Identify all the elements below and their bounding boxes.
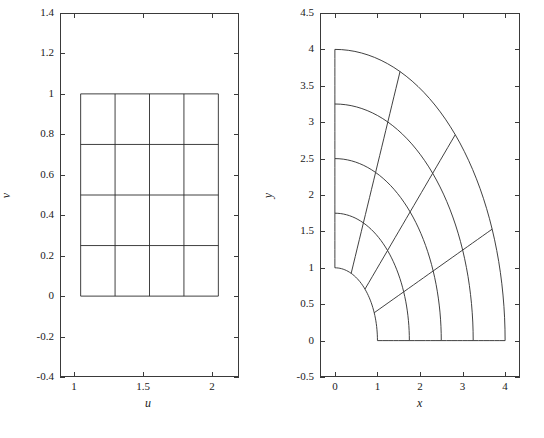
xy-mesh-angular-1 — [374, 229, 492, 313]
xy-mesh — [0, 0, 544, 438]
figure-canvas: 1.4 1.2 1 0.8 0.6 0.4 0.2 0 -0.2 -0.4 1 … — [0, 0, 544, 438]
xy-mesh-angular-2 — [365, 135, 455, 289]
panel-xy-grid: 4.5 4 3.5 3 2.5 2 1.5 1 0.5 0 -0.5 0 1 2… — [272, 0, 544, 438]
xy-mesh-angular-lines — [335, 49, 505, 340]
xy-mesh-angular-3 — [351, 72, 400, 274]
